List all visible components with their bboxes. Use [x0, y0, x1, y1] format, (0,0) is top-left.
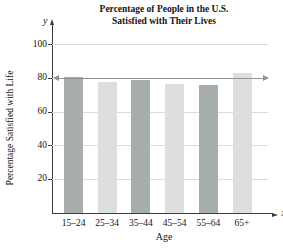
x-axis-line	[52, 213, 273, 215]
y-tick-mark-60	[48, 112, 52, 113]
y-tick-label-40: 40	[25, 140, 47, 151]
chart-title: Percentage of People in the U.S. Satisfi…	[54, 3, 274, 27]
y-tick-label-20: 20	[25, 173, 47, 184]
chart-title-line1: Percentage of People in the U.S.	[54, 3, 274, 15]
bar-65+	[233, 73, 252, 213]
x-axis-arrow-icon	[272, 213, 278, 217]
bar-35–44	[131, 80, 150, 213]
plot-area: y x 2040608010015–2425–3435–4445–5455–64…	[52, 28, 268, 213]
y-tick-mark-40	[48, 145, 52, 146]
y-axis-arrow-icon	[50, 19, 54, 25]
y-axis-symbol: y	[43, 15, 47, 26]
bar-25–34	[98, 82, 117, 213]
gridline-100	[52, 44, 268, 45]
reference-line-left-arrow-icon	[53, 75, 59, 81]
y-axis-line	[52, 24, 53, 214]
y-tick-mark-20	[48, 179, 52, 180]
x-axis-symbol: x	[282, 207, 283, 218]
y-axis-title: Percentage Satisfied with Life	[4, 48, 16, 208]
y-tick-label-60: 60	[25, 106, 47, 117]
y-tick-label-80: 80	[25, 72, 47, 83]
x-axis-title: Age	[54, 231, 274, 242]
x-category-label-65+: 65+	[221, 218, 263, 229]
chart-root: Percentage of People in the U.S. Satisfi…	[0, 0, 283, 252]
reference-line-right-arrow-icon	[263, 75, 269, 81]
y-tick-label-100: 100	[25, 39, 47, 50]
bar-55–64	[199, 85, 218, 213]
chart-title-line2: Satisfied with Their Lives	[54, 15, 274, 27]
reference-line	[55, 78, 267, 80]
bar-45–54	[165, 84, 184, 214]
y-tick-mark-100	[48, 44, 52, 45]
y-tick-mark-80	[48, 78, 52, 79]
bar-15–24	[64, 77, 83, 213]
